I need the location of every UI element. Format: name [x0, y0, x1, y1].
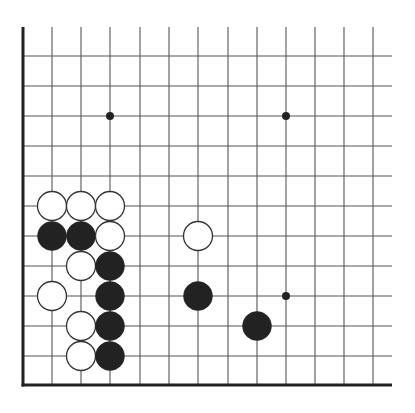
- star-point-icon: [282, 112, 290, 120]
- go-board[interactable]: [0, 0, 415, 413]
- white-stone[interactable]: [67, 252, 96, 281]
- black-stone[interactable]: [38, 222, 67, 251]
- stones-layer: [38, 192, 272, 371]
- white-stone[interactable]: [96, 192, 125, 221]
- white-stone[interactable]: [67, 342, 96, 371]
- black-stone[interactable]: [96, 282, 125, 311]
- star-point-icon: [106, 112, 114, 120]
- black-stone[interactable]: [96, 342, 125, 371]
- black-stone[interactable]: [96, 252, 125, 281]
- white-stone[interactable]: [184, 222, 213, 251]
- white-stone[interactable]: [38, 192, 67, 221]
- go-board-canvas[interactable]: [0, 0, 415, 413]
- white-stone[interactable]: [67, 312, 96, 341]
- white-stone[interactable]: [38, 282, 67, 311]
- white-stone[interactable]: [96, 222, 125, 251]
- star-point-icon: [282, 292, 290, 300]
- black-stone[interactable]: [67, 222, 96, 251]
- black-stone[interactable]: [184, 282, 213, 311]
- white-stone[interactable]: [67, 192, 96, 221]
- black-stone[interactable]: [96, 312, 125, 341]
- black-stone[interactable]: [243, 312, 272, 341]
